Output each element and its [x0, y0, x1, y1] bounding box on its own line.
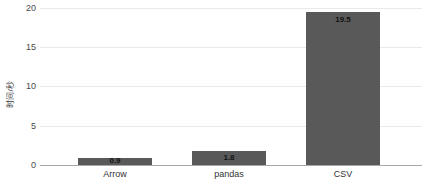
y-tick-20: 20 [16, 4, 36, 13]
y-tick-5: 5 [16, 122, 36, 131]
bar-value-csv: 19.5 [306, 16, 380, 24]
bar-value-pandas: 1.8 [192, 154, 266, 162]
plot-area: 0.9 1.8 19.5 [40, 0, 422, 188]
bar-value-arrow: 0.9 [78, 157, 152, 165]
y-axis-ticks: 20 15 10 5 0 [16, 0, 36, 188]
bar-csv[interactable]: 19.5 [306, 12, 380, 165]
y-tick-0: 0 [16, 161, 36, 170]
bar-arrow[interactable]: 0.9 [78, 158, 152, 165]
x-axis-line [40, 165, 422, 166]
x-label-pandas: pandas [192, 170, 266, 179]
bar-chart: 时间/秒 20 15 10 5 0 0.9 1.8 19.5 Arrow pan… [0, 0, 425, 188]
x-label-arrow: Arrow [78, 170, 152, 179]
y-tick-15: 15 [16, 43, 36, 52]
x-label-csv: CSV [306, 170, 380, 179]
gridline-20 [40, 8, 422, 9]
bar-pandas[interactable]: 1.8 [192, 151, 266, 165]
y-axis-title-text: 时间/秒 [4, 81, 15, 107]
y-tick-10: 10 [16, 82, 36, 91]
